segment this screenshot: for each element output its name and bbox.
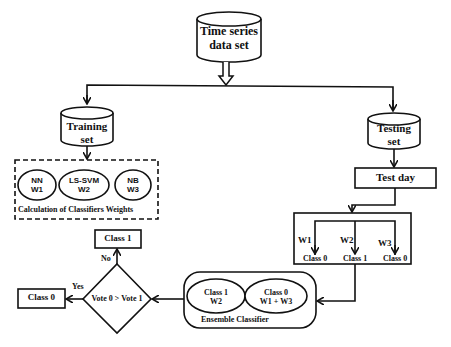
- ensemble-class1: Class 1 W2: [187, 288, 245, 306]
- prediction-w3-weight: W3: [378, 238, 392, 248]
- class0-outcome-label: Class 0: [18, 292, 65, 302]
- source-label-line1: Time series: [197, 25, 261, 39]
- ensemble-class1-line1: Class 1: [187, 288, 245, 297]
- testing-label-line1: Testing: [368, 122, 420, 135]
- training-label: Training set: [61, 120, 113, 145]
- decision-label: Vote 0 > Vote 1: [85, 294, 149, 303]
- ensemble-class1-line2: W2: [187, 297, 245, 306]
- ensemble-class0-line1: Class 0: [245, 288, 307, 297]
- prediction-w3-class: Class 0: [383, 254, 407, 263]
- class1-outcome-label: Class 1: [95, 233, 141, 243]
- ensemble-class0: Class 0 W1 + W3: [245, 288, 307, 306]
- classifier-nb-weight: W3: [115, 185, 151, 194]
- classifier-nb-name: NB: [115, 176, 151, 185]
- split-connector: [87, 85, 393, 109]
- weights-caption: Calculation of Classifiers Weights: [18, 205, 133, 214]
- classifier-lssvm-name: LS-SVM: [59, 176, 109, 185]
- ensemble-caption: Ensemble Classifier: [201, 315, 269, 324]
- classifier-lssvm: LS-SVM W2: [59, 176, 109, 194]
- prediction-w1-class: Class 0: [303, 254, 327, 263]
- classifier-nn-weight: W1: [18, 185, 56, 194]
- test-day-label: Test day: [355, 171, 436, 184]
- ensemble-class0-line2: W1 + W3: [245, 297, 307, 306]
- training-label-line1: Training: [61, 120, 113, 133]
- prediction-w2-class: Class 1: [343, 254, 367, 263]
- prediction-w1-weight: W1: [298, 235, 312, 245]
- testing-label-line2: set: [368, 135, 420, 148]
- classifier-nn-name: NN: [18, 176, 56, 185]
- classifier-lssvm-weight: W2: [59, 185, 109, 194]
- prediction-w2-weight: W2: [340, 235, 354, 245]
- testing-label: Testing set: [368, 122, 420, 147]
- decision-yes-label: Yes: [72, 282, 84, 291]
- double-arrow-icon: [219, 62, 233, 85]
- classifier-nn: NN W1: [18, 176, 56, 194]
- source-label: Time series data set: [197, 25, 261, 53]
- classifier-nb: NB W3: [115, 176, 151, 194]
- training-label-line2: set: [61, 133, 113, 146]
- decision-no-label: No: [101, 254, 111, 263]
- source-label-line2: data set: [197, 39, 261, 53]
